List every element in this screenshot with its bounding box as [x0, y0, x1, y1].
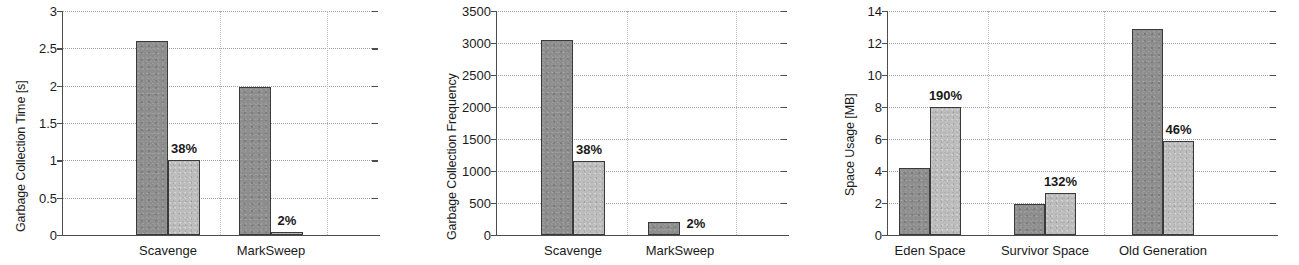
- bar-percentage-label: 190%: [929, 88, 962, 103]
- y-axis-line: [887, 11, 888, 235]
- y-axis-tick-label: 0.5: [39, 190, 57, 205]
- bar-baseline: [899, 168, 930, 235]
- bar-baseline: [136, 41, 168, 235]
- y-axis-tick-label: 0: [875, 228, 882, 243]
- y-axis-tick-mark-right: [781, 203, 787, 204]
- bar-optimized: [1163, 141, 1194, 235]
- y-axis-tick-label: 10: [868, 68, 882, 83]
- bar-percentage-label: 2%: [278, 213, 297, 228]
- y-axis-tick-label: 1500: [462, 132, 491, 147]
- x-axis-line: [62, 235, 380, 236]
- x-axis-tick-label: Old Generation: [1119, 243, 1207, 258]
- y-axis-tick-label: 1000: [462, 164, 491, 179]
- bar-percentage-label: 38%: [576, 142, 602, 157]
- y-axis-tick-label: 14: [868, 4, 882, 19]
- gridline: [496, 139, 781, 141]
- y-axis-tick-label: 4: [875, 164, 882, 179]
- x-axis-tick-label: MarkSweep: [237, 243, 306, 258]
- y-axis-tick-label: 8: [875, 100, 882, 115]
- y-axis-tick-mark-right: [781, 43, 787, 44]
- y-axis-tick-label: 1: [50, 153, 57, 168]
- y-axis-tick-mark-right: [1270, 107, 1276, 108]
- y-axis-tick-mark-right: [1270, 139, 1276, 140]
- gridline: [496, 43, 781, 45]
- x-axis-tick-label: Survivor Space: [1001, 243, 1089, 258]
- gridline: [887, 11, 1270, 13]
- bar-optimized: [930, 107, 961, 235]
- bar-baseline: [1014, 204, 1045, 235]
- gridline: [496, 203, 781, 205]
- y-axis-tick-label: 2.5: [39, 41, 57, 56]
- y-axis-title: Garbage Collection Frequency: [445, 73, 459, 240]
- bar-baseline: [1132, 29, 1163, 235]
- gridline: [62, 11, 372, 13]
- y-axis-tick-label: 6: [875, 132, 882, 147]
- y-axis-tick-label: 3: [50, 4, 57, 19]
- y-axis-tick-mark-right: [1270, 75, 1276, 76]
- bar-optimized: [168, 160, 200, 235]
- y-axis-title: Garbage Collection Time [s]: [14, 80, 28, 232]
- gridline: [496, 75, 781, 77]
- gridline: [62, 123, 372, 125]
- y-axis-tick-mark-right: [372, 160, 378, 161]
- bar-baseline: [648, 222, 680, 235]
- y-axis-tick-mark-right: [372, 86, 378, 87]
- bar-baseline: [541, 40, 573, 235]
- y-axis-tick-mark-right: [781, 107, 787, 108]
- y-axis-tick-label: 500: [469, 196, 491, 211]
- category-separator: [736, 11, 738, 235]
- y-axis-tick-mark-right: [1270, 43, 1276, 44]
- bar-optimized: [573, 161, 605, 235]
- bar-percentage-label: 132%: [1044, 174, 1077, 189]
- category-separator: [627, 11, 629, 235]
- category-separator: [327, 11, 329, 235]
- y-axis-tick-label: 0: [50, 228, 57, 243]
- y-axis-tick-mark-right: [372, 48, 378, 49]
- y-axis-tick-mark-right: [372, 198, 378, 199]
- category-separator: [1104, 11, 1106, 235]
- y-axis-tick-mark-right: [372, 11, 378, 12]
- gridline: [887, 75, 1270, 77]
- y-axis-tick-mark-right: [1270, 11, 1276, 12]
- gridline: [62, 198, 372, 200]
- bar-optimized: [1045, 193, 1076, 235]
- figure-three-bar-charts: Garbage Collection Time [s]00.511.522.53…: [0, 0, 1299, 265]
- category-separator: [220, 11, 222, 235]
- bar-baseline: [239, 87, 271, 235]
- bar-percentage-label: 38%: [171, 141, 197, 156]
- y-axis-tick-label: 3500: [462, 4, 491, 19]
- gridline: [887, 43, 1270, 45]
- y-axis-tick-label: 2: [50, 78, 57, 93]
- y-axis-tick-label: 3000: [462, 36, 491, 51]
- y-axis-tick-mark-right: [781, 171, 787, 172]
- y-axis-tick-label: 2000: [462, 100, 491, 115]
- y-axis-tick-mark-right: [781, 139, 787, 140]
- gridline: [62, 160, 372, 162]
- bar-percentage-label: 2%: [687, 216, 706, 231]
- category-separator: [988, 11, 990, 235]
- y-axis-tick-mark-right: [1270, 171, 1276, 172]
- y-axis-tick-label: 2: [875, 196, 882, 211]
- x-axis-line: [887, 235, 1278, 236]
- y-axis-tick-mark-right: [1270, 203, 1276, 204]
- y-axis-line: [62, 11, 63, 235]
- y-axis-tick-label: 12: [868, 36, 882, 51]
- gridline: [496, 171, 781, 173]
- x-axis-tick-label: Scavenge: [544, 243, 602, 258]
- chart-panel-2: Garbage Collection Frequency050010001500…: [433, 0, 833, 265]
- y-axis-tick-label: 0: [484, 228, 491, 243]
- bar-percentage-label: 46%: [1165, 122, 1191, 137]
- y-axis-tick-mark-right: [372, 123, 378, 124]
- gridline: [496, 11, 781, 13]
- x-axis-tick-label: Eden Space: [895, 243, 966, 258]
- gridline: [62, 48, 372, 50]
- x-axis-tick-label: MarkSweep: [646, 243, 715, 258]
- y-axis-line: [496, 11, 497, 235]
- y-axis-title: Space Usage [MB]: [843, 93, 857, 196]
- gridline: [496, 107, 781, 109]
- gridline: [62, 86, 372, 88]
- y-axis-tick-mark-right: [781, 75, 787, 76]
- x-axis-tick-label: Scavenge: [139, 243, 197, 258]
- chart-panel-1: Garbage Collection Time [s]00.511.522.53…: [0, 0, 433, 265]
- x-axis-line: [496, 235, 789, 236]
